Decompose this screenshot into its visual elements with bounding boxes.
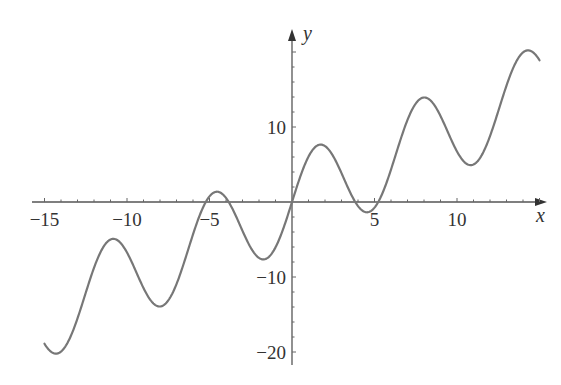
x-tick-label: 5 (370, 209, 380, 230)
x-tick-labels: −15−10−5510 (30, 209, 467, 230)
axes: −15−10−5510 10−10−20 x y (30, 22, 547, 365)
y-axis-label: y (301, 22, 312, 45)
x-axis-label: x (535, 204, 545, 226)
function-plot: −15−10−5510 10−10−20 x y (0, 0, 561, 385)
x-tick-label: −15 (30, 209, 60, 230)
x-tick-label: 10 (448, 209, 467, 230)
y-tick-label: −20 (256, 342, 286, 363)
y-tick-label: 10 (267, 117, 286, 138)
y-tick-labels: 10−10−20 (256, 117, 286, 363)
y-axis-arrow-icon (288, 29, 296, 41)
x-tick-label: −5 (199, 209, 219, 230)
y-tick-label: −10 (256, 267, 286, 288)
x-tick-label: −10 (112, 209, 142, 230)
